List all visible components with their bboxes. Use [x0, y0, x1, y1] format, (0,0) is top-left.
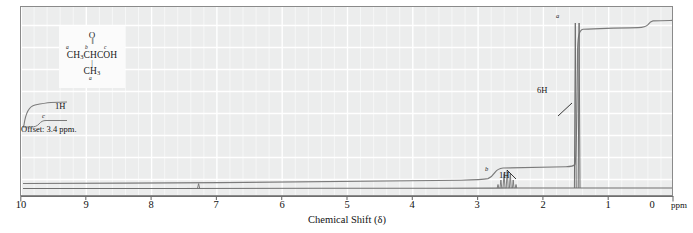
label-letter-a: a [556, 12, 559, 19]
peak-residual-7-27 [198, 184, 200, 189]
offset-note: Offset: 3.4 ppm. [21, 124, 77, 134]
spectrum-plot-area: O ‖ a b c CH3CHCOH | CH3 a 1H c 1H b 6H … [20, 6, 673, 196]
tick-label-9: 9 [83, 199, 88, 210]
structure-branch-ch: CH [84, 66, 97, 76]
label-1h-offset: 1H [55, 101, 65, 111]
tick-label-6: 6 [279, 199, 284, 210]
tick-label-4: 4 [409, 199, 414, 210]
structure-label-b-top: b [85, 45, 88, 51]
tick-label-8: 8 [148, 199, 153, 210]
tick-label-0: 0 [649, 199, 654, 210]
label-6h: 6H [537, 85, 547, 95]
structure-label-a-top: a [66, 45, 69, 51]
leader-6h [558, 103, 572, 116]
x-axis-title: Chemical Shift (δ) [308, 214, 386, 225]
label-1h-mid: 1H [499, 170, 509, 180]
label-letter-b: b [485, 165, 488, 172]
structure-branch-sub3: 3 [97, 69, 100, 76]
tick-label-3: 3 [474, 199, 479, 210]
tick-label-7: 7 [213, 199, 218, 210]
structure-top-labels: a b c [63, 45, 121, 51]
structure-label-a-bottom: a [89, 76, 92, 82]
nmr-spectrum-figure: O ‖ a b c CH3CHCOH | CH3 a 1H c 1H b 6H … [0, 0, 693, 233]
tick-label-10: 10 [16, 199, 27, 210]
chemical-structure-inset: O ‖ a b c CH3CHCOH | CH3 a [59, 26, 125, 88]
structure-bottom-labels: a [63, 76, 121, 83]
tick-label-2: 2 [540, 199, 545, 210]
tick-label-5: 5 [344, 199, 349, 210]
tick-label-1: 1 [605, 199, 610, 210]
ppm-unit-label: ppm [671, 200, 687, 210]
structure-label-c-top: c [104, 45, 106, 51]
structure-chain-ch: CH [67, 50, 80, 60]
spectrum-baseline [23, 188, 673, 189]
x-axis-tick-labels: 10 9 8 7 6 5 4 3 2 1 0 [0, 199, 693, 213]
label-letter-c: c [42, 112, 45, 119]
structure-chain-rest: CHCOH [84, 50, 118, 60]
